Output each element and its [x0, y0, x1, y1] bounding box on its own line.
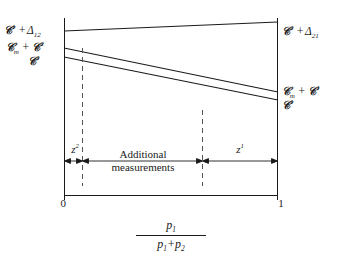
symbol-script-c: 𝒞	[4, 24, 12, 36]
symbol-script-c: 𝒞	[282, 85, 290, 97]
caption-denominator: p1+p2	[136, 236, 206, 253]
zone-label-z2: z2	[64, 143, 86, 155]
curve-label-c1: 𝒞1	[282, 99, 293, 111]
line-c2	[64, 57, 278, 100]
curve-label-c2: 𝒞2	[28, 55, 39, 67]
zone-label-z1: z1	[229, 143, 251, 155]
curve-label-c1-delta12: 𝒞1 + Δ12	[4, 24, 41, 39]
caption-numerator: p1	[136, 218, 206, 236]
line-cm-c2	[64, 48, 278, 92]
x-tick-label-1: 1	[274, 198, 288, 209]
symbol-script-c: 𝒞	[6, 41, 14, 53]
symbol-script-c: 𝒞	[282, 99, 290, 111]
symbol-script-c: 𝒞	[282, 25, 290, 37]
data-lines	[64, 22, 278, 100]
x-axis-caption: p1 p1+p2	[136, 218, 206, 253]
symbol-script-c: 𝒞	[28, 55, 36, 67]
line-c1-delta12	[64, 22, 278, 31]
x-tick-label-0: 0	[44, 198, 66, 209]
additional-measurements-line1: Additional	[103, 148, 183, 161]
curve-label-c2-delta21: 𝒞2 + Δ21	[282, 25, 319, 40]
additional-measurements-line2: measurements	[103, 161, 183, 174]
figure-container: 𝒞1 + Δ12 𝒞m + 𝒞2 𝒞2 𝒞2 + Δ21 𝒞m + 𝒞1 𝒞1 …	[0, 0, 341, 253]
zone-label-additional-measurements: Additional measurements	[103, 148, 183, 175]
